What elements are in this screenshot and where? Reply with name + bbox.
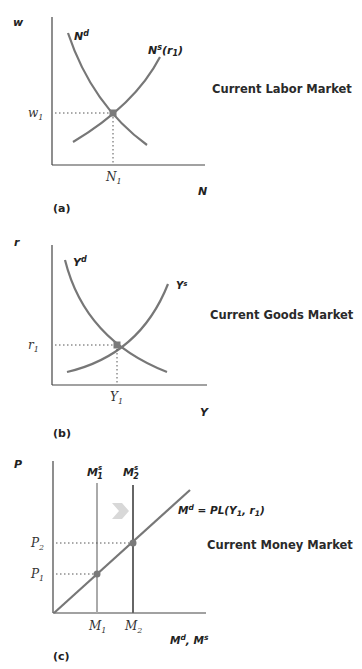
point-p1: [94, 571, 101, 578]
y-axis-label: w: [13, 16, 24, 29]
x-axis-label: N: [198, 185, 207, 198]
x-axis-label: Y: [200, 406, 209, 419]
panel-label: (a): [53, 202, 70, 215]
svg-text:P2: P2: [30, 536, 44, 552]
equilibrium-point: [114, 342, 121, 349]
svg-text:Ms1: Ms1: [87, 464, 103, 481]
svg-text:N1: N1: [105, 170, 122, 186]
svg-text:P1: P1: [30, 567, 44, 583]
panel-title: Current Labor Market: [212, 82, 352, 96]
svg-text:Md = PL(Y1, r1): Md = PL(Y1, r1): [178, 503, 265, 518]
goods-supply-curve: [67, 284, 168, 372]
point-p2: [130, 540, 137, 547]
m2-label: M: [124, 619, 138, 633]
m1-label: M: [88, 619, 102, 633]
equilibrium-point: [110, 110, 117, 117]
svg-text:Md, Ms: Md, Ms: [170, 633, 209, 646]
labor-supply-curve: [73, 57, 160, 142]
svg-text:r: r: [14, 236, 20, 249]
svg-text:M1: M1: [88, 619, 106, 635]
money-demand-label: M: [178, 504, 189, 516]
labor-market-panel: w N Nd Ns(r1) w1 N1 Current Labor Market…: [13, 16, 352, 215]
n1-label: N: [105, 170, 117, 184]
svg-text:w: w: [13, 16, 24, 29]
panel-title: Current Money Market: [207, 538, 353, 552]
svg-text:N: N: [198, 185, 207, 198]
demand-label: N: [74, 30, 83, 43]
panel-title: Current Goods Market: [210, 308, 354, 322]
x-axis-label: M: [170, 634, 181, 646]
svg-text:r1: r1: [28, 338, 39, 354]
svg-text:Y1: Y1: [110, 390, 123, 406]
y-axis-label: P: [14, 458, 22, 471]
supply-label: N: [148, 44, 157, 57]
y-axis-label: r: [14, 236, 20, 249]
panel-label: (c): [53, 650, 70, 663]
svg-text:P: P: [14, 458, 22, 471]
shift-arrow-icon: [112, 503, 129, 519]
svg-text:Nd: Nd: [74, 29, 89, 43]
svg-text:Ys: Ys: [176, 280, 187, 291]
svg-text:M2: M2: [124, 619, 142, 635]
svg-text:Yd: Yd: [73, 255, 87, 269]
labor-demand-curve: [68, 33, 147, 145]
svg-text:w1: w1: [28, 106, 43, 122]
money-market-panel: P Md, Ms Ms1 Ms2 Md = PL(Y1, r1) P2 P1 M…: [14, 458, 353, 663]
svg-text:Ns(r1): Ns(r1): [148, 43, 183, 58]
panel-label: (b): [53, 427, 71, 440]
svg-text:Y: Y: [200, 406, 209, 419]
goods-market-panel: r Y Yd Ys r1 Y1 Current Goods Market (b): [14, 236, 354, 440]
svg-text:Ms2: Ms2: [123, 464, 139, 481]
